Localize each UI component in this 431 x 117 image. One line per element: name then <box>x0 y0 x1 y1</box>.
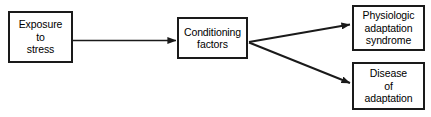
node-exposure-to-stress-label: Exposure to stress <box>19 18 63 56</box>
node-exposure-to-stress: Exposure to stress <box>8 11 73 63</box>
edge-conditioning-to-physiologic <box>249 25 350 43</box>
node-disease-of-adaptation-label: Disease of adaptation <box>364 67 412 105</box>
node-physiologic-adaptation-syndrome: Physiologic adaptation syndrome <box>352 5 425 51</box>
node-disease-of-adaptation: Disease of adaptation <box>352 62 425 110</box>
flow-diagram: Exposure to stress Conditioning factors … <box>0 0 431 117</box>
edge-conditioning-to-disease <box>249 43 350 84</box>
node-conditioning-factors-label: Conditioning factors <box>184 26 241 51</box>
node-physiologic-adaptation-syndrome-label: Physiologic adaptation syndrome <box>362 9 414 47</box>
node-conditioning-factors: Conditioning factors <box>177 17 248 59</box>
